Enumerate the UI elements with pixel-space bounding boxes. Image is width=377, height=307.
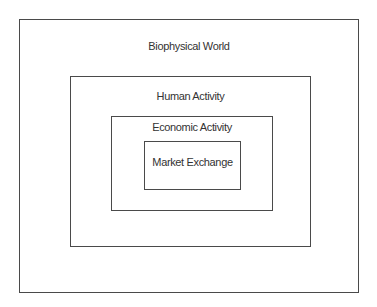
economic-activity-label: Economic Activity <box>112 121 272 133</box>
diagram-canvas: Biophysical World Human Activity Economi… <box>0 0 377 307</box>
human-activity-label: Human Activity <box>71 90 310 102</box>
market-exchange-label: Market Exchange <box>145 156 240 168</box>
market-exchange-box: Market Exchange <box>144 141 241 190</box>
biophysical-world-label: Biophysical World <box>20 40 358 52</box>
